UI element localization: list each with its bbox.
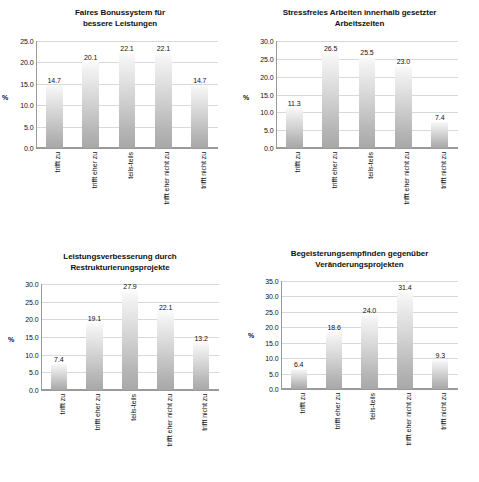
gridline	[281, 389, 458, 390]
y-axis-tick-label: 20.0	[265, 324, 281, 331]
bar-slot: trifft zu14.7	[36, 41, 72, 148]
bar-value-label: 19.1	[74, 315, 114, 322]
x-axis-category-label: trifft zu	[54, 152, 61, 172]
bar-value-label: 13.2	[181, 335, 221, 342]
bar-value-label: 22.1	[107, 45, 148, 52]
bar-slot: teils-teils24.0	[352, 281, 387, 389]
y-axis-tick-label: 10.0	[20, 102, 36, 109]
bar-value-label: 24.0	[349, 307, 389, 314]
chart-panel-begeisterungsempfinden: Begeisterungsempfinden gegenüberVeränder…	[240, 241, 479, 482]
x-axis-category-label: trifft zu	[294, 152, 301, 172]
y-axis-tick-label: 5.0	[264, 127, 276, 134]
bar-slot: trifft eher nicht zu22.1	[148, 284, 184, 390]
bar-slot: teils-teils25.5	[349, 41, 385, 148]
bar-slot: trifft eher zu20.1	[72, 41, 108, 148]
x-axis-category-label: teils-teils	[130, 394, 137, 421]
bar-slot: trifft eher nicht zu22.1	[145, 41, 181, 148]
bar[interactable]	[86, 323, 102, 390]
y-axis-unit-label: %	[243, 94, 249, 101]
bar[interactable]	[286, 108, 303, 148]
bar[interactable]	[46, 85, 63, 148]
bar[interactable]	[291, 369, 307, 389]
bar[interactable]	[359, 57, 376, 148]
bar-slot: trifft eher zu19.1	[77, 284, 113, 390]
bar[interactable]	[155, 53, 172, 148]
y-axis-tick-label: 0.0	[24, 145, 36, 152]
bar-slot: teils-teils22.1	[109, 41, 145, 148]
y-axis-tick-label: 30.0	[25, 281, 41, 288]
chart-title-line: Arbeitszeiten	[240, 19, 479, 30]
y-axis-tick-label: 25.0	[25, 298, 41, 305]
bar[interactable]	[193, 343, 209, 390]
x-axis-category-label: trifft nicht zu	[440, 393, 447, 430]
bar-value-label: 9.3	[420, 352, 460, 359]
chart-title: Stressfreies Arbeiten innerhalb gesetzte…	[240, 8, 479, 29]
bar-slot: trifft eher zu26.5	[312, 41, 348, 148]
y-axis-tick-label: 0.0	[264, 145, 276, 152]
plot-area: 0.05.010.015.020.025.030.035.0trifft zu6…	[281, 281, 458, 389]
bar[interactable]	[326, 332, 342, 389]
y-axis-tick-label: 35.0	[265, 278, 281, 285]
gridline	[36, 148, 218, 149]
chart-panel-faires-bonussystem: Faires Bonussystem fürbessere Leistungen…	[0, 0, 240, 241]
bar-value-label: 27.9	[110, 283, 150, 290]
chart-title-line: Stressfreies Arbeiten innerhalb gesetzte…	[240, 8, 479, 19]
bar-slot: trifft nicht zu9.3	[423, 281, 458, 389]
y-axis-unit-label: %	[248, 332, 254, 339]
chart-title: Begeisterungsempfinden gegenüberVeränder…	[240, 249, 479, 270]
gridline	[276, 148, 458, 149]
bar-value-label: 25.5	[347, 49, 388, 56]
bars-layer: trifft zu11.3trifft eher zu26.5teils-tei…	[276, 41, 458, 148]
bar-value-label: 11.3	[274, 100, 315, 107]
gridline	[41, 390, 219, 391]
y-axis-unit-label: %	[2, 94, 8, 101]
x-axis-category-label: trifft zu	[299, 393, 306, 413]
bar[interactable]	[361, 315, 377, 389]
y-axis-tick-label: 20.0	[260, 73, 276, 80]
bar[interactable]	[397, 292, 413, 389]
bar-value-label: 26.5	[310, 45, 351, 52]
bar-slot: trifft zu11.3	[276, 41, 312, 148]
x-axis-category-label: trifft nicht zu	[201, 394, 208, 431]
bar-slot: trifft eher nicht zu31.4	[387, 281, 422, 389]
bar-value-label: 14.7	[179, 77, 220, 84]
bar-slot: trifft nicht zu13.2	[183, 284, 219, 390]
y-axis-tick-label: 0.0	[29, 387, 41, 394]
bar-value-label: 22.1	[143, 45, 184, 52]
bar[interactable]	[431, 122, 448, 148]
bar[interactable]	[191, 85, 208, 148]
plot-area: 0.05.010.015.020.025.0trifft zu14.7triff…	[36, 41, 218, 148]
chart-title-line: Begeisterungsempfinden gegenüber	[240, 249, 479, 260]
chart-panel-stressfreies-arbeiten: Stressfreies Arbeiten innerhalb gesetzte…	[240, 0, 479, 241]
x-axis-category-label: trifft nicht zu	[440, 152, 447, 189]
y-axis-tick-label: 5.0	[29, 369, 41, 376]
x-axis-category-label: trifft zu	[59, 394, 66, 414]
bar-slot: trifft eher zu18.6	[316, 281, 351, 389]
bar[interactable]	[432, 360, 448, 389]
y-axis-tick-label: 10.0	[260, 109, 276, 116]
bar-value-label: 22.1	[145, 304, 185, 311]
chart-panel-leistungsverbesserung: Leistungsverbesserung durchRestrukturier…	[0, 241, 240, 482]
bar[interactable]	[119, 53, 136, 148]
x-axis-category-label: teils-teils	[367, 152, 374, 179]
chart-title: Leistungsverbesserung durchRestrukturier…	[0, 252, 240, 273]
bar[interactable]	[322, 53, 339, 148]
bars-layer: trifft zu6.4trifft eher zu18.6teils-teil…	[281, 281, 458, 389]
y-axis-tick-label: 5.0	[269, 370, 281, 377]
bar[interactable]	[122, 291, 138, 390]
chart-title-line: Veränderungsprojekten	[240, 260, 479, 271]
bar[interactable]	[51, 364, 67, 390]
y-axis-tick-label: 25.0	[260, 55, 276, 62]
x-axis-category-label: teils-teils	[369, 393, 376, 420]
bar[interactable]	[82, 62, 99, 148]
bar[interactable]	[157, 312, 173, 390]
bar-value-label: 14.7	[34, 77, 75, 84]
bar-slot: trifft nicht zu14.7	[182, 41, 218, 148]
y-axis-tick-label: 0.0	[269, 386, 281, 393]
y-axis-tick-label: 15.0	[25, 334, 41, 341]
bar-slot: trifft eher nicht zu23.0	[385, 41, 421, 148]
bar[interactable]	[395, 66, 412, 148]
y-axis-tick-label: 20.0	[20, 59, 36, 66]
bar-slot: trifft nicht zu7.4	[422, 41, 458, 148]
x-axis-category-label: trifft eher zu	[331, 152, 338, 188]
